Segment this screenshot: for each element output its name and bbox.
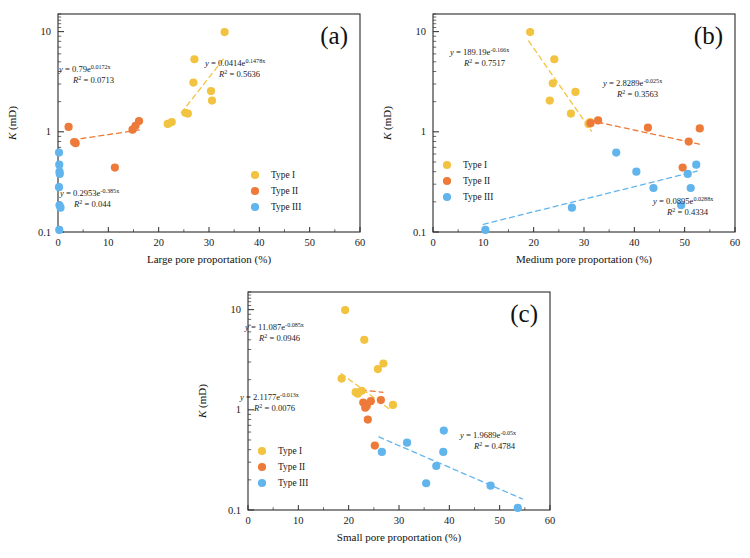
equation-text: y = 2.8289e-0.025x [602,78,662,88]
trendline-type-i [529,41,592,131]
data-point [377,396,385,404]
equation-label: y = 189.19e-0.166xR2 = 0.7517 [449,47,509,68]
equation-label: y = 0.2953e-0.385xR2 = 0.044 [59,188,119,209]
equation-label: y = 1.9689e-0.05xR2 = 0.4784 [459,430,516,451]
legend-marker-type-i [443,161,451,169]
x-tick-label: 60 [355,237,366,248]
data-point [649,184,657,192]
r-squared-text: R2 = 0.7517 [463,58,506,68]
x-tick-label: 40 [254,237,265,248]
data-point [367,397,375,405]
data-point [189,79,197,87]
data-point [571,88,579,96]
x-tick-label: 30 [579,237,590,248]
y-tick-label: 10 [41,26,52,37]
x-axis-title: Small pore proportation (%) [337,531,462,544]
data-point [111,163,119,171]
panel-tag: (b) [694,22,723,50]
data-point [341,306,349,314]
panel-tag: (a) [320,22,348,50]
data-point [432,462,440,470]
data-point [64,123,72,131]
data-point [72,139,80,147]
r-squared-text: R2 = 0.0713 [72,75,114,85]
y-tick-label: 1 [421,126,426,137]
series-type-ii [359,396,385,450]
data-point [568,204,576,212]
x-tick-label: 50 [304,237,315,248]
legend-label-type-iii: Type III [463,192,493,202]
data-point [56,170,64,178]
plot-b: 0.1110K (mD)0102030405060Medium pore pro… [375,0,750,278]
data-point [207,87,215,95]
equation-text: y = 11.087e-0.085x [244,322,304,332]
plot-c: 0.1110K (mD)0102030405060Small pore prop… [190,278,565,558]
data-point [422,479,430,487]
legend-marker-type-ii [443,177,451,185]
data-point [371,441,379,449]
data-point [55,226,63,234]
x-tick-label: 20 [153,237,164,248]
equation-text: y = 0.79e0.0172x [58,64,111,74]
x-tick-label: 50 [679,237,690,248]
y-tick-label: 1 [236,404,241,415]
data-point [481,226,489,234]
data-point [55,161,63,169]
x-tick-label: 40 [444,515,455,526]
legend-label-type-i: Type I [463,160,487,170]
series-type-i [338,306,398,409]
data-point [546,96,554,104]
data-point [135,117,143,125]
data-point [56,204,64,212]
x-axis: 0102030405060 [430,227,740,248]
plot-a: 0.1110K (mD)0102030405060Large pore prop… [0,0,375,278]
data-point [632,168,640,176]
legend-label-type-i: Type I [278,446,302,456]
data-point [612,149,620,157]
data-point [208,96,216,104]
equation-label: y = 0.79e0.0172xR2 = 0.0713 [58,64,114,85]
data-point [685,137,693,145]
legend-label-type-ii: Type II [278,462,305,472]
data-point [586,119,594,127]
legend-marker-type-i [258,447,266,455]
r-squared-text: R2 = 0.5636 [218,69,261,79]
legend: Type IType IIType III [443,160,493,202]
legend-marker-type-iii [258,479,266,487]
legend: Type IType IIType III [258,446,308,488]
y-tick-label: 0.1 [228,505,241,516]
legend-label-type-ii: Type II [271,186,298,196]
x-tick-label: 30 [394,515,405,526]
r-squared-text: R2 = 0.0946 [258,333,301,343]
y-axis: 0.1110 [413,14,439,238]
legend: Type IType IIType III [251,170,301,212]
equation-label: y = 0.0895e0.0288xR2 = 0.4334 [652,196,713,217]
data-point [221,28,229,36]
data-point [168,118,176,126]
r-squared-text: R2 = 0.044 [73,199,111,209]
data-point [487,482,495,490]
data-point [549,79,557,87]
y-axis-title: K (mD) [6,106,19,141]
data-point [358,387,366,395]
equation-label: y = 2.8289e-0.025xR2 = 0.3563 [602,78,662,99]
series-type-ii [64,117,143,172]
data-point [440,427,448,435]
series-type-iii [481,149,700,234]
series-type-ii [586,116,703,171]
equation-text: y = 0.0414e0.1478x [204,58,265,68]
equation-label: y = 11.087e-0.085xR2 = 0.0946 [244,322,304,343]
x-tick-label: 0 [430,237,435,248]
data-point [684,170,692,178]
data-point [378,448,386,456]
data-point [514,504,522,512]
panel-tag: (c) [510,300,538,328]
x-tick-label: 60 [545,515,556,526]
equation-text: y = 0.0895e0.0288x [652,196,713,206]
legend-marker-type-iii [443,193,451,201]
x-tick-label: 20 [343,515,354,526]
data-point [679,163,687,171]
x-axis-title: Medium pore proportation (%) [516,253,652,266]
data-point [550,55,558,63]
legend-label-type-iii: Type III [271,202,301,212]
